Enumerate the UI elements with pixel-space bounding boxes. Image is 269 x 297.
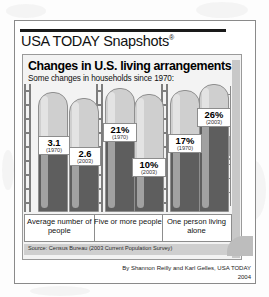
value-label-five-2003: 10% (2003) [132, 158, 166, 177]
byline: By Shannon Reilly and Karl Gelles, USA T… [122, 265, 251, 271]
credit-year: 2004 [122, 273, 251, 282]
bar-five-or-more-1970 [105, 88, 135, 212]
paper-speckle [2, 150, 14, 190]
value-label-one-2003: 26% (2003) [197, 108, 231, 127]
credit-block: By Shannon Reilly and Karl Gelles, USA T… [122, 264, 251, 281]
value-label-five-1970: 21% (1970) [103, 123, 137, 142]
chart-title: Changes in U.S. living arrangements [28, 59, 231, 73]
paper-speckle [196, 2, 248, 18]
tick-rail-left [24, 84, 31, 212]
brand-logo: USA TODAY Snapshots® [21, 33, 174, 49]
chart-plot-area: 3.1 (1970) 2.6 (2003) 21% (1970) 10% (20… [24, 84, 238, 212]
brand-name: USA TODAY Snapshots [21, 33, 169, 49]
value-label-avg-1970: 3.1 (1970) [38, 136, 70, 155]
snapshot-page: USA TODAY Snapshots® Changes in U.S. liv… [0, 0, 269, 297]
registered-mark-icon: ® [169, 34, 174, 41]
paper-speckle [6, 4, 46, 18]
category-label-one-person: One person living alone [162, 217, 231, 236]
source-note: Source: Census Bureau (2003 Current Popu… [28, 245, 172, 251]
chart-subtitle: Some changes in households since 1970: [28, 74, 174, 83]
logo-rule [20, 29, 226, 32]
value-label-one-1970: 17% (1970) [168, 134, 202, 153]
category-label-avg-people: Average number of people [25, 217, 94, 236]
paper-speckle [30, 286, 90, 296]
category-label-strip: Average number of people Five or more pe… [24, 214, 232, 242]
value-label-avg-2003: 2.6 (2003) [69, 147, 101, 166]
category-label-five-or-more: Five or more people [94, 217, 163, 226]
bar-five-or-more-2003 [134, 94, 164, 212]
bar-one-person-2003 [199, 84, 229, 212]
